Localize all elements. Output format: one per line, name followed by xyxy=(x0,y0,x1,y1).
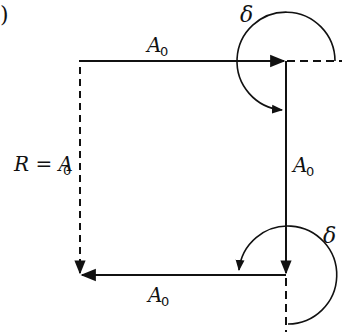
svg-text:0: 0 xyxy=(306,164,314,179)
panel-label: ) xyxy=(0,2,9,27)
svg-text:A: A xyxy=(145,33,161,57)
svg-text:A: A xyxy=(291,153,307,177)
angle-label-top: δ xyxy=(240,2,253,27)
label-top-vector: A 0 xyxy=(145,33,168,59)
svg-text:0: 0 xyxy=(160,44,168,59)
angle-label-bottom: δ xyxy=(323,223,336,248)
label-bottom-vector: A 0 xyxy=(146,283,169,309)
svg-text:0: 0 xyxy=(161,294,169,309)
label-resultant: R = A 0 xyxy=(13,152,73,178)
svg-text:A: A xyxy=(146,283,162,307)
phasor-diagram: ) A 0 A 0 A 0 R = A 0 δ δ xyxy=(0,0,342,332)
label-right-vector: A 0 xyxy=(291,153,314,179)
svg-text:0: 0 xyxy=(63,163,71,178)
